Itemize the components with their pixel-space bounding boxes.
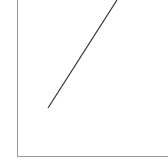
data-line — [48, 0, 117, 108]
line-chart — [0, 0, 168, 161]
